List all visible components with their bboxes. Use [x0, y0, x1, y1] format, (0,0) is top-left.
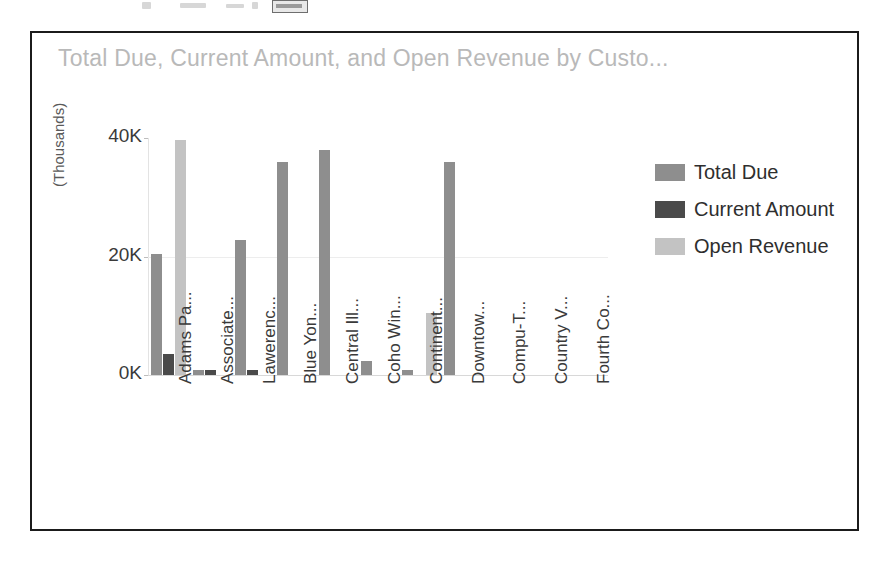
chart-legend: Total DueCurrent AmountOpen Revenue: [655, 161, 834, 258]
x-tick-label: Coho Win...: [385, 295, 405, 384]
x-tick-label: Downtow...: [469, 301, 489, 384]
y-tick-mark: [144, 257, 148, 258]
legend-swatch: [655, 164, 685, 181]
scan-artifact-strip: [0, 0, 896, 22]
y-tick-mark: [144, 375, 148, 376]
x-tick-label: Fourth Co...: [594, 294, 614, 384]
x-tick-label: Continent...: [427, 297, 447, 384]
x-tick-label: Associate...: [218, 296, 238, 384]
plot-area: Adams Pa...Associate...Lawerenc...Blue Y…: [118, 102, 608, 392]
legend-swatch: [655, 201, 685, 218]
x-tick-label: Lawerenc...: [260, 296, 280, 384]
chart-title: Total Due, Current Amount, and Open Reve…: [58, 45, 669, 72]
legend-swatch: [655, 238, 685, 255]
x-tick-label: Central Ill...: [343, 298, 363, 384]
legend-label: Current Amount: [694, 198, 834, 221]
x-tick-label: Blue Yon...: [301, 303, 321, 384]
bar[interactable]: [205, 370, 216, 375]
legend-label: Total Due: [694, 161, 779, 184]
legend-item[interactable]: Open Revenue: [655, 235, 834, 258]
legend-item[interactable]: Total Due: [655, 161, 834, 184]
x-tick-label: Adams Pa...: [176, 291, 196, 384]
bar[interactable]: [163, 354, 174, 375]
legend-label: Open Revenue: [694, 235, 829, 258]
y-axis-title: (Thousands): [50, 103, 67, 187]
legend-item[interactable]: Current Amount: [655, 198, 834, 221]
toolbar-icon-artifact: [272, 0, 308, 13]
x-tick-label: Country V...: [552, 296, 572, 384]
y-tick-mark: [144, 138, 148, 139]
bar[interactable]: [151, 254, 162, 375]
x-tick-label: Compu-T...: [510, 301, 530, 384]
x-axis-baseline: [148, 375, 608, 376]
chart-frame: Total Due, Current Amount, and Open Reve…: [30, 31, 859, 531]
bar[interactable]: [247, 370, 258, 375]
